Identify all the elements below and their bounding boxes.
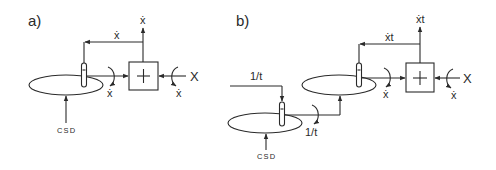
input-label-a: X — [190, 69, 199, 84]
input-label-b: X — [463, 71, 472, 86]
feedback-label-a: ẋ — [114, 29, 120, 41]
output-label-b: ẋt — [416, 13, 425, 25]
output-label-a: ẋ — [140, 14, 146, 26]
feedback-label-b: ẋt — [385, 31, 394, 43]
upper-wheel-pickup-b — [357, 63, 362, 87]
panel-a: a) CSD ẋ ẋ ẋ X ẋ — [28, 12, 199, 135]
csd-label-a: CSD — [57, 126, 76, 135]
shaft-rotation-label-b: ẋ — [383, 88, 389, 100]
panel-a-label: a) — [28, 12, 41, 29]
lower-output-label-b: 1/t — [305, 126, 317, 138]
wheel-input-label-b: 1/t — [250, 70, 262, 82]
wheel-pickup-a — [82, 63, 87, 87]
input-rotation-label-a: ẋ — [176, 87, 182, 99]
input-rotation-label-b: ẋ — [451, 89, 457, 101]
turntable-a — [29, 75, 103, 95]
lower-turntable-b — [228, 113, 302, 133]
panel-b-label: b) — [236, 12, 249, 29]
csd-label-b: CSD — [257, 152, 276, 161]
panel-b: b) CSD 1/t 1/t ẋt ẋt ẋ — [228, 12, 472, 161]
differential-analyzer-diagram: a) CSD ẋ ẋ ẋ X ẋ b) CSD — [0, 0, 496, 170]
lower-wheel-pickup-b — [280, 102, 285, 126]
shaft-rotation-label-a: ẋ — [107, 87, 113, 99]
